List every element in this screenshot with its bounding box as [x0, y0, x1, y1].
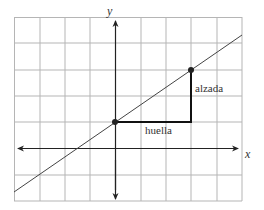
run-label: huella: [145, 124, 172, 136]
y-axis-label: y: [106, 4, 113, 18]
slope-line: [14, 35, 242, 192]
point-y-intercept: [112, 119, 118, 125]
grid: [14, 17, 242, 201]
rise-label: alzada: [195, 82, 223, 94]
coordinate-plane: x y huella alzada: [0, 0, 264, 210]
x-axis-label: x: [244, 147, 251, 161]
point-second: [188, 67, 194, 73]
